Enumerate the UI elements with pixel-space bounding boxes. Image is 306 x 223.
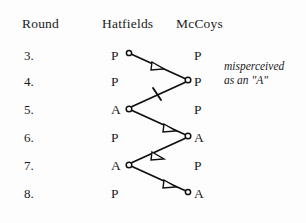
node-hatfields-round3	[126, 50, 131, 55]
hatfields-mccoys-diagram: Round Hatfields McCoys 3. 4. 5. 6. 7. 8.…	[0, 0, 306, 223]
node-hatfields-round7	[126, 162, 132, 168]
node-hatfields-round5	[126, 106, 132, 112]
node-mccoys-round4	[185, 77, 191, 83]
arrow-line-m4-to-h5	[131, 82, 186, 107]
node-mccoys-round8	[185, 189, 190, 194]
node-mccoys-round6	[185, 133, 191, 139]
annotation-line-1: misperceived	[224, 60, 284, 74]
arrowhead-icon	[151, 62, 164, 70]
arrow-overlay	[0, 0, 306, 223]
arrowhead-icon	[163, 180, 176, 188]
annotation-misperceived: misperceived as an "A"	[224, 60, 284, 87]
annotation-line-2: as an "A"	[224, 74, 284, 88]
arrowhead-icon	[163, 124, 176, 132]
arrowhead-icon	[151, 152, 164, 160]
